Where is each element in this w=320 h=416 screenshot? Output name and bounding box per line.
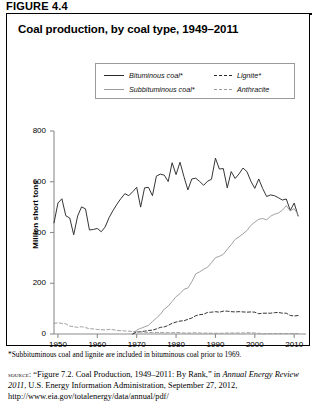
x-axis-tick-label: 2000: [240, 340, 270, 349]
source-part1: “Figure 7.2. Coal Production, 1949–2011:…: [31, 370, 222, 379]
chart-footnote: *Subbituminous coal and lignite are incl…: [8, 350, 308, 359]
y-axis-tick-label: 600: [20, 177, 46, 186]
series-line-lignite: [133, 311, 298, 334]
source-part2: , U.S. Energy Information Administration…: [8, 381, 237, 401]
x-axis-tick-label: 1970: [122, 340, 152, 349]
x-axis-tick-label: 1950: [43, 340, 73, 349]
y-axis-tick-label: 800: [20, 126, 46, 135]
chart-plot-area: [7, 14, 311, 347]
series-line-anthracite: [54, 323, 298, 334]
series-line-subbituminous-coal: [133, 206, 298, 334]
y-axis-tick-label: 200: [20, 278, 46, 287]
source-label: source:: [8, 370, 31, 379]
x-axis-tick-label: 1990: [200, 340, 230, 349]
x-axis-tick-label: 1980: [161, 340, 191, 349]
series-line-bituminous-coal: [54, 158, 298, 235]
chart-source: source: “Figure 7.2. Coal Production, 19…: [8, 369, 310, 403]
x-axis-tick-label: 2010: [279, 340, 309, 349]
chart-panel: Coal production, by coal type, 1949–2011…: [6, 13, 310, 346]
y-axis-tick-label: 400: [20, 228, 46, 237]
x-axis-tick-label: 1960: [82, 340, 112, 349]
y-axis-tick-label: 0: [20, 329, 46, 338]
figure-label: FIGURE 4.4: [6, 0, 314, 12]
